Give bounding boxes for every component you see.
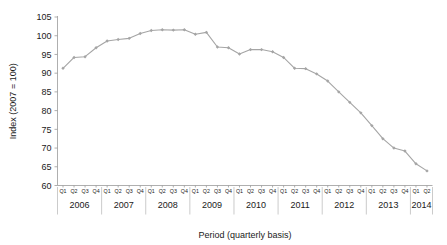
x-quarter-label: Q2 <box>203 188 210 194</box>
x-quarter-label: Q1 <box>368 188 375 194</box>
y-tick-label: 100 <box>36 31 51 41</box>
x-quarter-label: Q4 <box>269 188 276 194</box>
x-quarter-label: Q1 <box>148 188 155 194</box>
y-axis-title: Index (2007 = 100) <box>8 63 18 139</box>
x-quarter-label: Q4 <box>313 188 320 194</box>
x-quarter-label: Q3 <box>82 188 89 194</box>
x-quarter-label: Q3 <box>258 188 265 194</box>
x-quarter-label: Q4 <box>357 188 364 194</box>
y-tick-label: 70 <box>41 143 51 153</box>
x-year-label: 2009 <box>202 200 222 210</box>
x-quarter-label: Q3 <box>214 188 221 194</box>
x-axis-quarter-labels: Q1Q2Q3Q4Q1Q2Q3Q4Q1Q2Q3Q4Q1Q2Q3Q4Q1Q2Q3Q4… <box>59 188 430 194</box>
x-quarter-label: Q3 <box>302 188 309 194</box>
x-quarter-label: Q3 <box>390 188 397 194</box>
x-year-label: 2006 <box>70 200 90 210</box>
x-year-label: 2011 <box>290 200 309 210</box>
x-quarter-label: Q1 <box>192 188 199 194</box>
x-year-label: 2012 <box>334 200 354 210</box>
x-axis-year-labels: 200620072008200920102011201220132014 <box>70 200 432 210</box>
x-quarter-label: Q1 <box>236 188 243 194</box>
x-quarter-label: Q2 <box>71 188 78 194</box>
y-tick-label: 105 <box>36 12 51 22</box>
series-line-index <box>63 30 427 171</box>
x-quarter-label: Q2 <box>423 188 430 194</box>
y-tick-label: 65 <box>41 162 51 172</box>
line-chart: 6065707580859095100105 Q1Q2Q3Q4Q1Q2Q3Q4Q… <box>0 0 447 245</box>
data-series-group <box>61 28 428 173</box>
x-axis-group: Q1Q2Q3Q4Q1Q2Q3Q4Q1Q2Q3Q4Q1Q2Q3Q4Q1Q2Q3Q4… <box>58 186 433 215</box>
y-tick-label: 90 <box>41 68 51 78</box>
data-point-marker <box>172 28 175 31</box>
data-point-marker <box>260 48 263 51</box>
y-tick-label: 85 <box>41 87 51 97</box>
x-quarter-label: Q1 <box>59 188 66 194</box>
data-point-marker <box>150 29 153 32</box>
data-point-marker <box>116 38 119 41</box>
x-quarter-label: Q3 <box>346 188 353 194</box>
y-axis-ticks: 6065707580859095100105 <box>36 12 57 191</box>
data-point-marker <box>139 32 142 35</box>
x-quarter-label: Q2 <box>379 188 386 194</box>
x-quarter-label: Q4 <box>401 188 408 194</box>
y-tick-label: 75 <box>41 125 51 135</box>
x-quarter-label: Q3 <box>170 188 177 194</box>
x-quarter-label: Q4 <box>181 188 188 194</box>
chart-container: 6065707580859095100105 Q1Q2Q3Q4Q1Q2Q3Q4Q… <box>0 0 447 245</box>
x-year-label: 2013 <box>378 200 398 210</box>
y-tick-label: 80 <box>41 106 51 116</box>
x-quarter-label: Q4 <box>225 188 232 194</box>
x-quarter-label: Q4 <box>137 188 144 194</box>
x-quarter-label: Q2 <box>335 188 342 194</box>
x-quarter-label: Q1 <box>412 188 419 194</box>
x-year-label: 2010 <box>246 200 266 210</box>
data-point-marker <box>183 28 186 31</box>
x-quarter-label: Q1 <box>324 188 331 194</box>
x-quarter-label: Q1 <box>104 188 111 194</box>
x-quarter-label: Q4 <box>93 188 100 194</box>
data-point-marker <box>194 33 197 36</box>
y-axis-group: 6065707580859095100105 <box>36 12 57 191</box>
data-point-marker <box>304 67 307 70</box>
data-point-marker <box>127 37 130 40</box>
x-quarter-label: Q2 <box>115 188 122 194</box>
x-quarter-label: Q2 <box>247 188 254 194</box>
data-point-marker <box>161 28 164 31</box>
x-quarter-label: Q2 <box>291 188 298 194</box>
x-axis-title: Period (quarterly basis) <box>198 230 291 240</box>
y-tick-label: 60 <box>41 181 51 191</box>
x-year-label: 2007 <box>114 200 134 210</box>
x-year-label: 2008 <box>158 200 178 210</box>
y-tick-label: 95 <box>41 50 51 60</box>
data-point-marker <box>249 48 252 51</box>
x-quarter-label: Q2 <box>159 188 166 194</box>
x-quarter-label: Q3 <box>126 188 133 194</box>
series-markers <box>61 28 428 173</box>
x-year-label: 2014 <box>411 200 431 210</box>
x-quarter-label: Q1 <box>280 188 287 194</box>
